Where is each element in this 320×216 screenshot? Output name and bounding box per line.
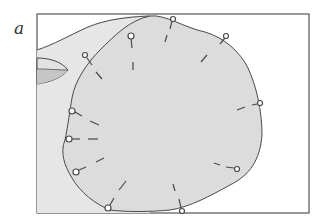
pin-head-icon (69, 108, 75, 114)
pin-head-icon (128, 33, 134, 39)
pin-head-icon (258, 101, 263, 106)
pin-head-icon (83, 53, 88, 58)
figure-diagram (0, 0, 320, 216)
pin-head-icon (180, 209, 185, 214)
pin-head-icon (73, 169, 79, 175)
pin-head-icon (171, 17, 176, 22)
pin-head-icon (66, 136, 72, 142)
pin-head-icon (235, 167, 240, 172)
pin-head-icon (105, 205, 111, 211)
pin-head-icon (224, 34, 229, 39)
